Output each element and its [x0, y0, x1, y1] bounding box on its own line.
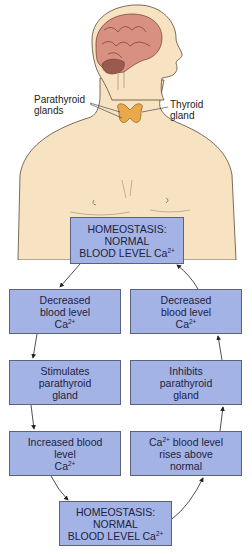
- box-text: Ca: [176, 318, 189, 330]
- box-line: NORMAL: [93, 518, 138, 530]
- box-text: Ca: [55, 460, 68, 472]
- increased-calcium-box: Increased blood level Ca2+: [9, 431, 121, 476]
- box-line: HOMEOSTASIS:: [87, 223, 166, 235]
- arrow-right2-to-right1: [218, 336, 222, 360]
- decreased-calcium-left-box: Decreased blood level Ca2+: [9, 289, 121, 334]
- superscript: 2+: [189, 318, 196, 325]
- parathyroid-label: Parathyroid glands: [34, 94, 85, 116]
- box-text: Ca: [149, 436, 162, 448]
- box-line: gland: [52, 389, 78, 401]
- arrow-left2-to-left3: [31, 405, 34, 429]
- arrow-top-to-left1: [60, 264, 80, 287]
- box-line: parathyroid: [39, 377, 92, 389]
- box-line: blood level: [40, 306, 90, 318]
- box-line: blood level: [161, 306, 211, 318]
- box-line: Decreased: [40, 294, 91, 306]
- box-line: rises above: [159, 448, 213, 460]
- arrow-left1-to-left2: [33, 334, 37, 358]
- arrow-bottom-to-right3: [172, 478, 203, 519]
- box-text: blood level: [170, 436, 223, 448]
- stimulates-parathyroid-box: Stimulates parathyroid gland: [9, 360, 121, 405]
- calcium-rises-above-normal-box: Ca2+ blood level rises above normal: [130, 431, 242, 476]
- superscript: 2+: [162, 436, 169, 443]
- thyroid-label: Thyroid gland: [170, 99, 203, 121]
- superscript: 2+: [68, 318, 75, 325]
- thyroid-label-line1: Thyroid: [170, 99, 203, 110]
- box-line: BLOOD LEVEL Ca2+: [68, 530, 164, 542]
- superscript: 2+: [167, 247, 174, 254]
- superscript: 2+: [156, 530, 163, 537]
- thyroid-label-line2: gland: [170, 110, 203, 121]
- box-line: Ca2+ blood level: [149, 436, 223, 448]
- box-line: Ca2+: [55, 460, 76, 472]
- box-line: HOMEOSTASIS:: [76, 506, 155, 518]
- superscript: 2+: [68, 460, 75, 467]
- box-line: Increased blood: [28, 436, 103, 448]
- homeostasis-bottom-box: HOMEOSTASIS: NORMAL BLOOD LEVEL Ca2+: [59, 501, 172, 546]
- box-line: Decreased: [161, 294, 212, 306]
- box-line: Inhibits: [169, 365, 202, 377]
- parathyroid-label-line1: Parathyroid: [34, 94, 85, 105]
- box-line: BLOOD LEVEL Ca2+: [79, 247, 175, 259]
- parathyroid-label-line2: glands: [34, 105, 85, 116]
- box-text: Ca: [55, 318, 68, 330]
- box-line: parathyroid: [160, 377, 213, 389]
- box-line: Ca2+: [176, 318, 197, 330]
- box-text: BLOOD LEVEL Ca: [79, 247, 167, 259]
- inhibits-parathyroid-box: Inhibits parathyroid gland: [130, 360, 242, 405]
- homeostasis-top-box: HOMEOSTASIS: NORMAL BLOOD LEVEL Ca2+: [70, 217, 184, 264]
- box-line: level: [54, 448, 76, 460]
- arrow-right1-to-top: [177, 265, 198, 289]
- box-line: Ca2+: [55, 318, 76, 330]
- box-text: BLOOD LEVEL Ca: [68, 530, 156, 542]
- box-line: gland: [173, 389, 199, 401]
- decreased-calcium-right-box: Decreased blood level Ca2+: [130, 289, 242, 334]
- box-line: NORMAL: [105, 235, 150, 247]
- box-line: normal: [170, 460, 202, 472]
- box-line: Stimulates: [40, 365, 89, 377]
- arrow-left3-to-bottom: [51, 476, 68, 500]
- arrow-right3-to-right2: [220, 407, 223, 431]
